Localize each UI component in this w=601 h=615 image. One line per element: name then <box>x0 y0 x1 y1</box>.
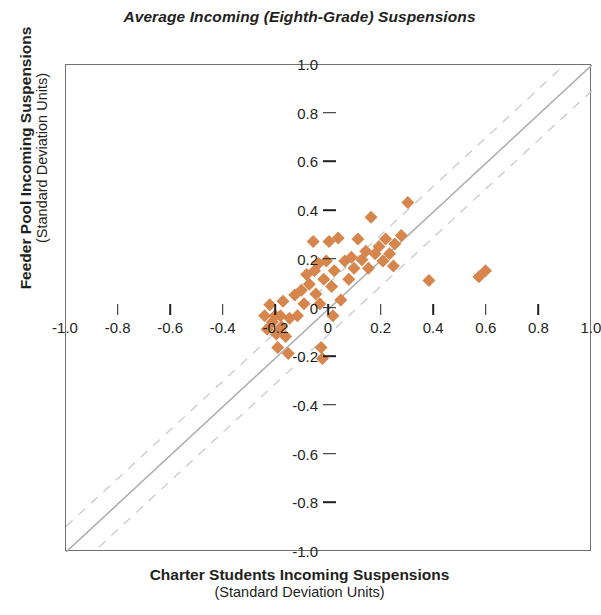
data-point-marker <box>316 352 329 365</box>
data-point-marker <box>263 298 276 311</box>
data-point-marker <box>326 309 339 322</box>
data-point-marker <box>334 293 347 306</box>
x-axis-title-main: Charter Students Incoming Suspensions <box>0 566 599 584</box>
data-point-marker <box>347 262 360 275</box>
lower-band-line <box>94 91 592 552</box>
data-point-marker <box>307 235 320 248</box>
data-points <box>258 196 492 365</box>
plot-canvas <box>66 65 592 552</box>
data-point-marker <box>365 211 378 224</box>
data-point-marker <box>342 273 355 286</box>
plot-area <box>65 64 591 551</box>
data-point-marker <box>351 233 364 246</box>
data-point-marker <box>401 196 414 209</box>
data-point-marker <box>328 264 341 277</box>
chart-title: Average Incoming (Eighth-Grade) Suspensi… <box>0 8 599 26</box>
data-point-marker <box>315 341 328 354</box>
data-point-marker <box>298 297 311 310</box>
data-point-marker <box>422 274 435 287</box>
data-point-marker <box>282 347 295 360</box>
x-axis-title: Charter Students Incoming Suspensions (S… <box>0 566 599 600</box>
y-axis-title-main: Feeder Pool Incoming Suspensions <box>17 0 34 368</box>
reference-lines <box>66 65 592 552</box>
data-point-marker <box>276 295 289 308</box>
y-axis-title-units: (Standard Deviation Units) <box>34 0 50 368</box>
x-axis-title-units: (Standard Deviation Units) <box>0 584 599 601</box>
y-axis-title: Feeder Pool Incoming Suspensions (Standa… <box>17 0 63 368</box>
identity-line <box>66 65 592 552</box>
